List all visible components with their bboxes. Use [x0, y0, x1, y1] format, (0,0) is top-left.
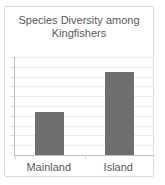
y-axis-tick — [11, 135, 14, 136]
x-tick-label-mainland: Mainland — [26, 161, 71, 173]
x-axis-tick — [153, 156, 154, 159]
y-axis-tick — [11, 67, 14, 68]
chart-title-line-1: Species Diversity among — [5, 14, 153, 27]
y-axis-tick — [11, 77, 14, 78]
y-axis-tick — [11, 96, 14, 97]
y-axis-tick — [11, 126, 14, 127]
plot-area — [14, 57, 154, 156]
y-axis-tick — [11, 57, 14, 58]
y-axis-tick — [11, 116, 14, 117]
chart-title-line-2: Kingfishers — [5, 27, 153, 40]
x-tick-label-island: Island — [104, 161, 133, 173]
chart-card: Species Diversity among Kingfishers Main… — [4, 6, 154, 177]
y-axis-tick — [11, 86, 14, 87]
chart-title: Species Diversity among Kingfishers — [5, 14, 153, 40]
y-axis-tick — [11, 145, 14, 146]
bar-mainland — [35, 112, 64, 155]
gridline — [15, 67, 154, 68]
gridline — [15, 57, 154, 58]
y-axis-tick — [11, 106, 14, 107]
x-axis-labels: MainlandIsland — [14, 159, 153, 175]
bar-island — [105, 72, 134, 155]
